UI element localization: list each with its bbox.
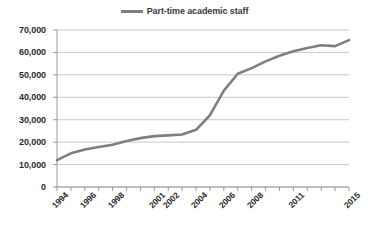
- y-axis-tick-label: 0: [41, 182, 46, 192]
- y-axis-tick-label: 60,000: [19, 47, 46, 57]
- y-axis-tick-label: 40,000: [19, 92, 46, 102]
- x-axis-ticks: [53, 30, 349, 191]
- gridlines: [57, 30, 349, 187]
- legend-line-swatch: [121, 10, 143, 13]
- y-axis-tick-label: 70,000: [19, 25, 46, 35]
- y-axis-tick-label: 50,000: [19, 70, 46, 80]
- x-axis-tick-label: 2015: [313, 190, 362, 237]
- line-chart: Part-time academic staff 70,00060,00050,…: [0, 0, 369, 237]
- plot-area: [57, 30, 349, 187]
- legend-label-part-time-academic-staff: Part-time academic staff: [147, 6, 249, 16]
- y-axis-tick-label: 10,000: [19, 160, 46, 170]
- y-axis-labels: 70,00060,00050,00040,00030,00020,00010,0…: [0, 30, 52, 187]
- chart-legend: Part-time academic staff: [0, 6, 369, 16]
- x-axis-labels: 1994199619982001200220042006200820112015: [57, 190, 349, 236]
- y-axis-tick-label: 30,000: [19, 115, 46, 125]
- plot-svg: [57, 30, 349, 187]
- y-axis-tick-label: 20,000: [19, 137, 46, 147]
